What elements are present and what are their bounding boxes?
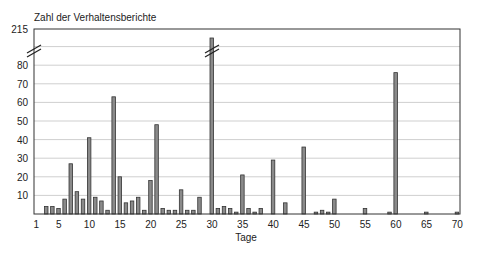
bar-day-5 bbox=[57, 208, 61, 214]
bar-chart: 1020304050607080215 15101520253035404550… bbox=[0, 0, 478, 256]
bar-day-33 bbox=[228, 208, 232, 214]
x-tick-label: 45 bbox=[298, 219, 310, 230]
x-tick-label: 70 bbox=[452, 219, 464, 230]
x-tick-label: 40 bbox=[268, 219, 280, 230]
x-tick-label: 50 bbox=[329, 219, 341, 230]
bar-day-13 bbox=[106, 210, 110, 214]
bar-day-9 bbox=[81, 199, 85, 214]
x-tick-label: 25 bbox=[176, 219, 188, 230]
bar-day-55 bbox=[363, 208, 367, 214]
bar-day-25 bbox=[179, 190, 183, 214]
bar-day-24 bbox=[173, 210, 177, 214]
bar-day-30 bbox=[210, 38, 214, 214]
bar-day-12 bbox=[100, 201, 104, 214]
y-tick-label: 40 bbox=[17, 135, 29, 146]
y-tick-label: 60 bbox=[17, 97, 29, 108]
bar-day-32 bbox=[222, 207, 226, 214]
bar-day-23 bbox=[167, 210, 171, 214]
bar-day-8 bbox=[75, 192, 79, 214]
bar-day-11 bbox=[94, 197, 98, 214]
bar-day-14 bbox=[112, 97, 116, 214]
y-tick-label: 30 bbox=[17, 153, 29, 164]
y-tick-label: 20 bbox=[17, 172, 29, 183]
bar-day-20 bbox=[149, 181, 153, 214]
bar-day-3 bbox=[44, 207, 48, 214]
y-tick-label: 50 bbox=[17, 116, 29, 127]
bar-day-19 bbox=[143, 210, 147, 214]
x-tick-label: 10 bbox=[84, 219, 96, 230]
x-tick-label: 60 bbox=[390, 219, 402, 230]
bar-day-22 bbox=[161, 208, 165, 214]
x-tick-label: 5 bbox=[56, 219, 62, 230]
x-tick-label: 20 bbox=[145, 219, 157, 230]
y-tick-label: 215 bbox=[11, 24, 28, 35]
x-tick-label: 65 bbox=[421, 219, 433, 230]
y-axis-ticks: 1020304050607080215 bbox=[11, 24, 28, 201]
x-tick-label: 35 bbox=[237, 219, 249, 230]
bar-day-38 bbox=[259, 208, 263, 214]
x-axis-title: Tage bbox=[235, 232, 257, 243]
bar-day-6 bbox=[63, 199, 67, 214]
bar-day-60 bbox=[394, 73, 398, 214]
bar-day-10 bbox=[87, 138, 91, 214]
bar-day-35 bbox=[241, 175, 245, 214]
x-tick-label: 1 bbox=[33, 219, 39, 230]
bar-day-4 bbox=[51, 207, 55, 214]
x-tick-label: 55 bbox=[360, 219, 372, 230]
bar-day-36 bbox=[247, 208, 251, 214]
bar-day-48 bbox=[320, 210, 324, 214]
bar-day-27 bbox=[192, 210, 196, 214]
x-tick-label: 15 bbox=[114, 219, 126, 230]
bar-day-26 bbox=[185, 210, 189, 214]
bars bbox=[44, 38, 458, 214]
x-tick-label: 30 bbox=[206, 219, 218, 230]
bar-day-42 bbox=[284, 203, 288, 214]
bar-day-18 bbox=[136, 197, 140, 214]
bar-day-45 bbox=[302, 147, 306, 214]
bar-day-40 bbox=[271, 160, 275, 214]
bar-day-7 bbox=[69, 164, 73, 214]
bar-day-15 bbox=[118, 177, 122, 214]
bar-day-17 bbox=[130, 201, 134, 214]
bar-day-21 bbox=[155, 125, 159, 214]
bar-day-16 bbox=[124, 203, 128, 214]
y-tick-label: 80 bbox=[17, 60, 29, 71]
y-tick-label: 70 bbox=[17, 79, 29, 90]
x-axis-ticks: 1510152025303540455055606570 bbox=[33, 219, 463, 230]
bar-day-28 bbox=[198, 197, 202, 214]
y-tick-label: 10 bbox=[17, 190, 29, 201]
bar-day-31 bbox=[216, 208, 220, 214]
bar-day-50 bbox=[333, 199, 337, 214]
